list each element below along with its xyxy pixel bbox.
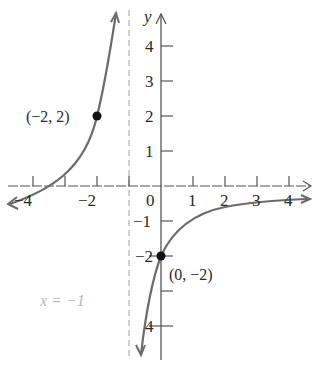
x-tick-label-2: 2: [220, 191, 229, 210]
x-tick-label-neg2: −2: [78, 191, 96, 210]
x-tick-label-3: 3: [252, 191, 261, 210]
x-tick-label-0: 0: [146, 191, 155, 210]
asymptote-label: x = −1: [39, 292, 85, 309]
y-tick-label-neg4: 4: [145, 317, 154, 336]
y-tick-label-1: 1: [145, 142, 154, 161]
y-axis-label: y: [142, 7, 152, 26]
point-a-label: (−2, 2): [26, 108, 70, 126]
x-tick-label-4: 4: [284, 191, 293, 210]
rational-function-graph: y (−2, 2) (0, −2) x = −1 −4 −2 0 1 2 3 4…: [0, 0, 315, 369]
point-b-label: (0, −2): [169, 266, 213, 284]
y-tick-label-4: 4: [145, 37, 154, 56]
y-tick-label-neg1: −1: [133, 212, 151, 231]
curve-right-branch: [141, 199, 308, 354]
point-neg2-2: [93, 112, 102, 121]
point-0-neg2: [157, 252, 166, 261]
y-tick-label-neg2: −2: [135, 247, 153, 266]
y-tick-label-2: 2: [145, 107, 154, 126]
x-tick-label-neg4: −4: [14, 191, 33, 210]
x-tick-label-1: 1: [188, 191, 197, 210]
y-tick-label-3: 3: [145, 72, 154, 91]
